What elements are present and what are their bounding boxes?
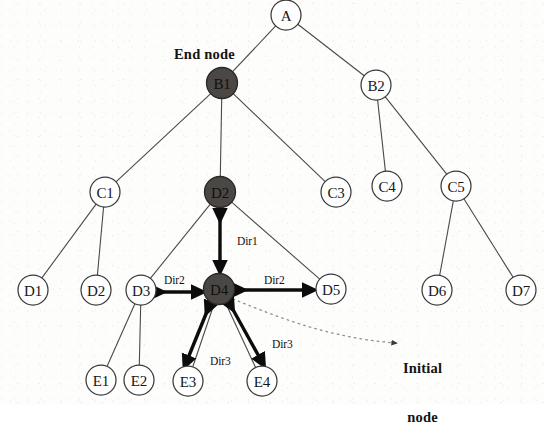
tree-node-e4[interactable]: E4 bbox=[247, 366, 277, 396]
node-label: B1 bbox=[213, 76, 230, 92]
tree-node-b2[interactable]: B2 bbox=[361, 70, 391, 100]
tree-node-c4[interactable]: C4 bbox=[372, 171, 402, 201]
initial-node-annotation: Initial node bbox=[403, 328, 442, 426]
direction-label-dir3b: Dir3 bbox=[272, 338, 293, 350]
node-label: C4 bbox=[378, 179, 396, 195]
tree-edge-C5-D6 bbox=[440, 201, 454, 275]
tree-node-b1-highlighted[interactable]: B1 bbox=[207, 68, 238, 99]
tree-node-d5[interactable]: D5 bbox=[316, 274, 346, 304]
tree-node-c1[interactable]: C1 bbox=[90, 177, 120, 207]
tree-edge-A-B2 bbox=[298, 24, 364, 76]
node-label: D2 bbox=[211, 185, 229, 201]
tree-edge-A-B1 bbox=[233, 26, 276, 72]
initial-node-pointer-line bbox=[233, 299, 396, 343]
tree-node-d7[interactable]: D7 bbox=[506, 275, 536, 305]
node-label: C3 bbox=[327, 185, 344, 201]
node-label: E4 bbox=[254, 374, 271, 390]
tree-nodes: AB1B2C1D2C3C4C5D1D2D3D4D5D6D7E1E2E3E4 bbox=[18, 0, 536, 396]
node-label: C5 bbox=[447, 179, 464, 195]
direction-label-dir3a: Dir3 bbox=[210, 355, 231, 367]
node-label: D3 bbox=[132, 283, 150, 299]
tree-edge-B2-C4 bbox=[378, 100, 386, 171]
tree-node-d6[interactable]: D6 bbox=[422, 275, 452, 305]
node-label: D4 bbox=[210, 282, 229, 298]
node-label: D1 bbox=[24, 283, 42, 299]
tree-node-d1[interactable]: D1 bbox=[18, 275, 48, 305]
node-label: A bbox=[281, 8, 292, 24]
tree-edge-B1-C3 bbox=[233, 94, 325, 182]
node-label: C1 bbox=[96, 185, 113, 201]
tree-edge-C1-D2 bbox=[97, 207, 103, 275]
node-label: D6 bbox=[428, 283, 447, 299]
tree-edge-C5-D7 bbox=[464, 199, 513, 278]
node-label: E3 bbox=[180, 374, 196, 390]
tree-node-d4-highlighted[interactable]: D4 bbox=[204, 274, 235, 305]
tree-edge-D3-E1 bbox=[107, 304, 135, 367]
node-label: D7 bbox=[512, 283, 531, 299]
node-label: E1 bbox=[93, 373, 109, 389]
tree-edge-B1-C1 bbox=[116, 94, 211, 182]
node-label: D2 bbox=[87, 283, 105, 299]
direction-label-dir2b: Dir2 bbox=[264, 274, 285, 286]
tree-node-c3[interactable]: C3 bbox=[321, 177, 351, 207]
tree-edge-D3-E2 bbox=[139, 305, 140, 365]
tree-node-d3[interactable]: D3 bbox=[126, 275, 156, 305]
direction-label-dir2a: Dir2 bbox=[164, 274, 185, 286]
tree-node-e2[interactable]: E2 bbox=[124, 365, 154, 395]
tree-node-a[interactable]: A bbox=[271, 0, 301, 30]
tree-node-d2-highlighted[interactable]: D2 bbox=[205, 177, 236, 208]
tree-node-e1[interactable]: E1 bbox=[86, 365, 116, 395]
tree-edge-C1-D1 bbox=[42, 204, 96, 278]
tree-node-e3[interactable]: E3 bbox=[173, 366, 203, 396]
end-node-annotation: End node bbox=[174, 46, 235, 62]
tree-edge-B2-C5 bbox=[385, 97, 446, 174]
tree-edge-D2top-D3 bbox=[150, 204, 210, 278]
dir3b-arrow bbox=[231, 306, 262, 362]
node-label: D5 bbox=[322, 282, 340, 298]
tree-node-c5[interactable]: C5 bbox=[441, 171, 471, 201]
tree-edge-B1-D2top bbox=[220, 99, 221, 177]
initial-node-annotation-line1: Initial bbox=[403, 360, 442, 376]
node-label: E2 bbox=[131, 373, 147, 389]
direction-label-dir1: Dir1 bbox=[237, 235, 258, 247]
tree-node-d2[interactable]: D2 bbox=[81, 275, 111, 305]
initial-node-annotation-line2: node bbox=[403, 409, 442, 425]
node-label: B2 bbox=[367, 78, 384, 94]
